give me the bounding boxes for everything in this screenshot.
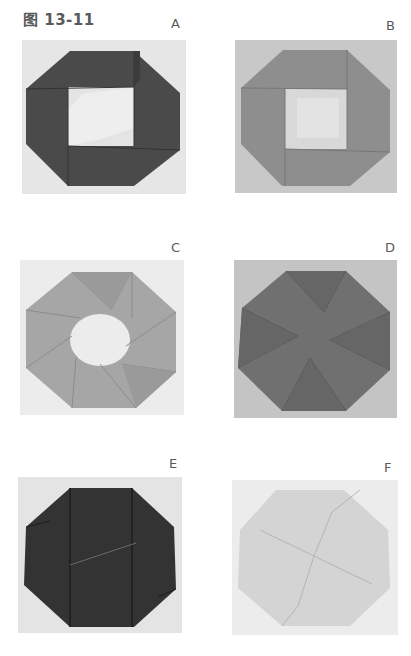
- figure-caption: 图 13-11: [23, 8, 95, 29]
- origami-octagon-b: [235, 40, 397, 193]
- photo-panel-e: [18, 477, 182, 633]
- photo-panel-b: [235, 40, 397, 193]
- photo-panel-f: [232, 480, 398, 635]
- origami-octagon-a: [22, 40, 186, 194]
- photo-panel-c: [20, 260, 184, 415]
- panel-label-d: D: [385, 240, 395, 255]
- origami-octagon-e: [18, 477, 182, 633]
- origami-octagon-d: [234, 260, 397, 418]
- panel-label-b: B: [386, 18, 395, 33]
- panel-label-a: A: [171, 16, 180, 31]
- photo-panel-a: [22, 40, 186, 194]
- origami-octagon-c: [20, 260, 184, 415]
- panel-label-f: F: [384, 460, 391, 475]
- photo-panel-d: [234, 260, 397, 418]
- panel-label-e: E: [169, 456, 177, 471]
- origami-octagon-f: [232, 480, 398, 635]
- panel-label-c: C: [171, 240, 180, 255]
